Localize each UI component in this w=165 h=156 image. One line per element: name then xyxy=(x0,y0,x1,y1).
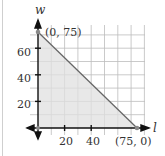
x-axis-arrow-left-icon xyxy=(27,125,34,131)
origin-marker xyxy=(36,126,40,130)
tick-label-x-40: 40 xyxy=(86,135,100,148)
left-border xyxy=(2,0,3,156)
tick-label-y-60: 60 xyxy=(17,46,31,59)
point-right-marker xyxy=(135,126,140,131)
y-axis-label: w xyxy=(35,3,46,17)
tick-label-x-20: 20 xyxy=(59,135,73,148)
annotation-point-right: (75, 0) xyxy=(115,135,152,148)
annotation-point-top: (0, 75) xyxy=(45,26,82,39)
y-axis-arrow-up-icon xyxy=(35,20,41,28)
point-top-marker xyxy=(36,30,41,35)
chart-frame: w l 60 40 20 20 40 (0, 75) (75, 0) xyxy=(0,0,165,156)
tick-label-y-20: 20 xyxy=(17,98,31,111)
chart-svg: w l 60 40 20 20 40 (0, 75) (75, 0) xyxy=(0,0,165,156)
x-axis-label: l xyxy=(153,121,157,135)
y-axis-arrow-down-icon xyxy=(35,132,41,139)
tick-label-y-40: 40 xyxy=(17,72,31,85)
x-axis-arrow-right-icon xyxy=(141,125,149,131)
